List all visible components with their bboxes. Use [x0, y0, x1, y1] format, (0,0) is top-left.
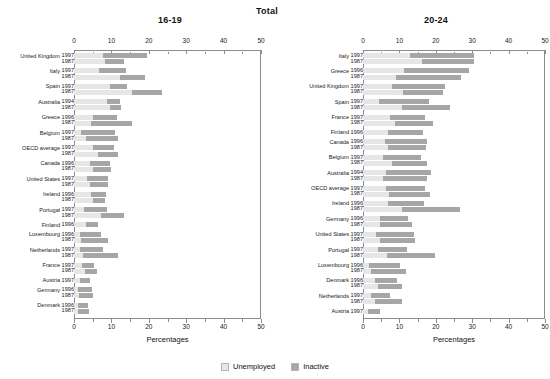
bar-segment-unemployed: [74, 99, 107, 104]
bar-row: [363, 170, 545, 175]
bar-segment-inactive: [80, 247, 103, 252]
bar-segment-inactive: [91, 192, 106, 197]
category-label: Germany19961987: [291, 216, 363, 228]
bar-row: [74, 121, 261, 126]
bar-segment-unemployed: [363, 269, 371, 274]
bar-segment-inactive: [388, 130, 423, 135]
category-year: 1987: [351, 268, 363, 274]
bar-segment-inactive: [388, 201, 424, 206]
bar-segment-inactive: [386, 170, 431, 175]
category-year: 1987: [62, 182, 74, 188]
bar-segment-unemployed: [363, 59, 422, 64]
bar-segment-inactive: [368, 309, 380, 314]
bar-row: [74, 145, 261, 150]
category-country-name: Germany: [326, 217, 349, 223]
bar-segment-inactive: [93, 167, 110, 172]
bar-segment-unemployed: [363, 284, 378, 289]
bar-segment-inactive: [383, 155, 422, 160]
bar-segment-inactive: [371, 269, 406, 274]
category-years: 19961987: [62, 115, 74, 126]
x-tick-label: 40: [220, 37, 227, 44]
bar-row: [74, 99, 261, 104]
category-year: 1987: [62, 105, 74, 111]
bar-segment-unemployed: [363, 201, 388, 206]
bar-segment-inactive: [369, 263, 400, 268]
category-year: 1987: [62, 151, 74, 157]
x-tick-mark: [509, 319, 510, 323]
bar-segment-inactive: [390, 115, 425, 120]
x-tick-label: 20: [145, 323, 152, 330]
chart-panel-20-24: 01020304050 01020304050 Italy19971987Gre…: [363, 50, 545, 319]
category-years: 19961987: [62, 287, 74, 298]
bar-segment-unemployed: [74, 161, 90, 166]
bar-segment-inactive: [392, 84, 444, 89]
bar-row: [74, 84, 261, 89]
bar-row: [363, 293, 545, 298]
category-years: 19941987: [351, 170, 363, 181]
x-tick-mark-minor: [242, 319, 243, 322]
bar-row: [74, 293, 261, 298]
bar-segment-inactive: [79, 293, 92, 298]
category-label: France19971987: [2, 263, 74, 275]
category-year: 1987: [351, 105, 363, 111]
x-tick-mark: [261, 50, 262, 54]
bar-segment-inactive: [87, 176, 108, 181]
category-country-name: France: [43, 263, 60, 269]
x-tick-label: 40: [220, 323, 227, 330]
category-year: 1987: [62, 166, 74, 172]
bar-segment-unemployed: [74, 253, 83, 258]
bar-row: [74, 136, 261, 141]
bar-segment-unemployed: [74, 90, 132, 95]
category-label: Luxembourg19961987: [291, 263, 363, 275]
category-year: 1987: [351, 283, 363, 289]
category-year: 1987: [62, 74, 74, 80]
category-years: 19961987: [351, 263, 363, 274]
bar-segment-unemployed: [363, 105, 402, 110]
category-year: 1987: [62, 136, 74, 142]
bar-segment-unemployed: [363, 232, 376, 237]
category-country-name: Spain: [46, 84, 60, 90]
x-axis-bottom: 01020304050: [74, 319, 261, 330]
legend-label-inactive: Inactive: [303, 362, 329, 371]
category-years: 19971987: [62, 145, 74, 156]
category-year: 1987: [351, 89, 363, 95]
category-years: 19961987: [351, 278, 363, 289]
x-tick-mark: [74, 319, 75, 323]
bar-segment-inactive: [375, 278, 397, 283]
bar-segment-unemployed: [363, 238, 380, 243]
bar-segment-unemployed: [363, 161, 392, 166]
bar-segment-unemployed: [74, 136, 86, 141]
bar-row: [363, 90, 545, 95]
bar-segment-inactive: [403, 90, 443, 95]
category-country-name: France: [332, 115, 349, 121]
category-years: 19961987: [62, 192, 74, 203]
category-year: 1996: [62, 222, 74, 228]
category-year: 1987: [351, 160, 363, 166]
bar-segment-inactive: [120, 75, 146, 80]
bar-segment-unemployed: [74, 152, 98, 157]
x-tick-label: 50: [541, 37, 548, 44]
bar-segment-unemployed: [74, 176, 87, 181]
bar-segment-unemployed: [363, 121, 395, 126]
category-label: Canada19961987: [291, 139, 363, 151]
bar-segment-inactive: [81, 238, 108, 243]
bar-row: [363, 284, 545, 289]
panel-title-right: 20-24: [424, 15, 448, 25]
bar-segment-unemployed: [363, 84, 392, 89]
category-label: Finland1996: [2, 222, 74, 228]
bar-segment-inactive: [379, 99, 429, 104]
x-tick-mark: [149, 319, 150, 323]
x-tick-mark: [363, 319, 364, 323]
bar-segment-inactive: [101, 213, 123, 218]
category-year: 1987: [62, 237, 74, 243]
bar-segment-unemployed: [74, 130, 81, 135]
x-tick-label: 0: [361, 37, 365, 44]
bar-row: [363, 186, 545, 191]
bar-row: [74, 130, 261, 135]
bar-segment-inactive: [371, 293, 389, 298]
category-country-name: Spain: [335, 100, 349, 106]
category-country-name: OECD average: [311, 186, 349, 192]
bar-row: [74, 222, 261, 227]
bar-segment-inactive: [410, 53, 474, 58]
category-label: Greece19961987: [291, 68, 363, 80]
